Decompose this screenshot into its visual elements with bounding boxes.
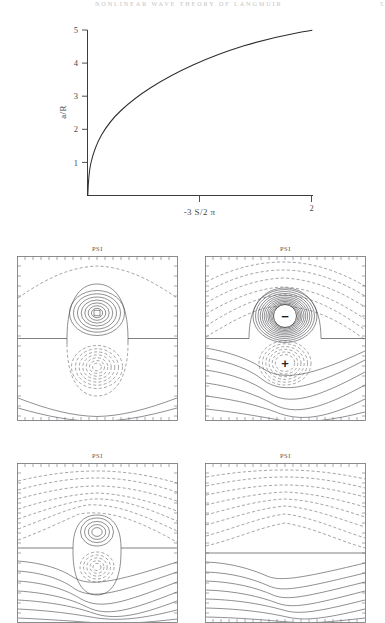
y-tick-label-5: 5 xyxy=(74,25,78,35)
contours-top-left xyxy=(18,266,177,421)
panel-title-bottom-left: PSI xyxy=(17,452,178,459)
x-axis-ticks xyxy=(200,196,312,203)
panel-frame-bottom-left xyxy=(17,463,178,623)
negative-sign-label: − xyxy=(274,305,297,328)
negative-sign-glyph: − xyxy=(281,309,289,324)
frame-ticks-bottom-right xyxy=(206,464,366,623)
y-tick-label-4: 4 xyxy=(74,58,79,68)
x-axis-title: -3 S/2 π xyxy=(184,207,216,217)
running-head-text: NONLINEAR WAVE THEORY OF LANGMUIR xyxy=(95,0,283,7)
y-tick-label-3: 3 xyxy=(74,91,78,101)
panel-frame-top-left xyxy=(17,256,178,421)
positive-sign-glyph: + xyxy=(281,356,289,371)
y-tick-label-1: 1 xyxy=(74,158,78,168)
contours-top-right xyxy=(206,262,365,421)
positive-sign-label: + xyxy=(281,356,289,371)
contours-bottom-right xyxy=(206,470,365,623)
y-tick-label-2: 2 xyxy=(74,124,78,134)
x-tick-label-2: 2 xyxy=(309,203,313,213)
contour-panel-bottom-left: PSI xyxy=(17,452,178,620)
panel-title-top-left: PSI xyxy=(17,245,178,252)
panel-title-top-right: PSI xyxy=(205,245,366,252)
panel-title-bottom-right: PSI xyxy=(205,452,366,459)
contour-panel-top-right: PSI xyxy=(205,245,366,421)
contour-panel-top-left: PSI xyxy=(17,245,178,421)
line-chart-svg: 1 2 3 4 5 2 -3 S/2 π a/R xyxy=(0,12,385,222)
contours-bottom-left xyxy=(18,471,177,623)
y-axis-ticks xyxy=(82,30,88,162)
panel-frame-bottom-right xyxy=(205,463,366,623)
line-chart: 1 2 3 4 5 2 -3 S/2 π a/R xyxy=(0,12,385,222)
data-curve xyxy=(88,30,312,195)
contour-panel-bottom-right: PSI xyxy=(205,452,366,620)
running-head: NONLINEAR WAVE THEORY OF LANGMUIR 5 xyxy=(95,0,385,12)
y-axis-title: a/R xyxy=(58,105,68,119)
panel-frame-top-right: − + xyxy=(205,256,366,421)
y-axis-tick-labels: 1 2 3 4 5 xyxy=(74,25,79,167)
page-number: 5 xyxy=(380,0,383,7)
